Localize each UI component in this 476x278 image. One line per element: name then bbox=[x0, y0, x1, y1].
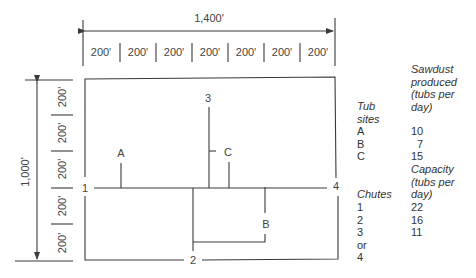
width-segment-label: 200' bbox=[164, 46, 184, 58]
table-header: Sawdust bbox=[411, 63, 457, 76]
tub-site-cell: B bbox=[357, 138, 364, 151]
width-total-label: 1,400' bbox=[194, 12, 224, 24]
width-segment-label: 200' bbox=[272, 46, 292, 58]
capacity-value-cell: 11 bbox=[411, 226, 422, 239]
table-header: Chutes bbox=[357, 188, 392, 201]
width-segment-label: 200' bbox=[128, 46, 148, 58]
tub-site-a-label: A bbox=[117, 147, 125, 159]
sawdust-table: Tub sites Sawdust produced (tubs per day… bbox=[357, 63, 476, 163]
height-segment-label: 200' bbox=[56, 87, 68, 107]
sawdust-value-cell: 10 bbox=[411, 125, 423, 138]
chute-2-label: 2 bbox=[190, 254, 196, 266]
height-segment-label: 200' bbox=[56, 196, 68, 216]
table-header: (tubs per bbox=[411, 176, 454, 189]
chute-3-label: 3 bbox=[205, 92, 211, 104]
sawdust-value-cell: 15 bbox=[411, 150, 423, 163]
tub-site-cell: C bbox=[357, 150, 365, 163]
tub-site-b-label: B bbox=[262, 218, 269, 230]
chute-cell: 3 or 4 bbox=[357, 226, 367, 264]
table-header: day) bbox=[411, 101, 457, 114]
height-segment-label: 200' bbox=[56, 123, 68, 143]
chute-cell: 1 bbox=[357, 201, 363, 214]
height-segment-label: 200' bbox=[56, 233, 68, 253]
tub-site-c-label: C bbox=[224, 146, 232, 158]
height-total-label: 1,000' bbox=[19, 157, 31, 187]
height-segment-label: 200' bbox=[56, 159, 68, 179]
capacity-table: Chutes Capacity (tubs per day) 1 22 2 16… bbox=[357, 163, 476, 243]
chute-cell: 2 bbox=[357, 214, 363, 227]
width-segment-label: 200' bbox=[200, 46, 220, 58]
width-segment-label: 200' bbox=[308, 46, 328, 58]
capacity-value-cell: 16 bbox=[411, 214, 423, 227]
table-header: Tub bbox=[357, 100, 380, 113]
sawdust-value-cell: 7 bbox=[417, 138, 423, 151]
table-header: sites bbox=[357, 113, 380, 126]
table-header: Capacity bbox=[411, 163, 454, 176]
width-segment-label: 200' bbox=[91, 46, 111, 58]
tub-site-cell: A bbox=[357, 125, 364, 138]
table-header: produced bbox=[411, 76, 457, 89]
chute-1-label: 1 bbox=[82, 182, 88, 194]
table-header: (tubs per bbox=[411, 88, 457, 101]
table-header: day) bbox=[411, 188, 454, 201]
chute-4-label: 4 bbox=[333, 180, 339, 192]
width-segment-label: 200' bbox=[236, 46, 256, 58]
capacity-value-cell: 22 bbox=[411, 201, 423, 214]
